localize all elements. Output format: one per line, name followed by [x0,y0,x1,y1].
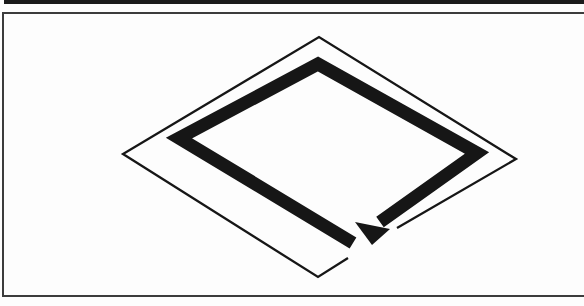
scanned-page [0,0,584,306]
diamond-loop-figure [0,0,584,306]
scan-edge-bar [4,0,584,4]
diamond-outline [123,37,516,277]
loop-arrow-band [179,64,477,243]
figure-frame [3,13,584,296]
